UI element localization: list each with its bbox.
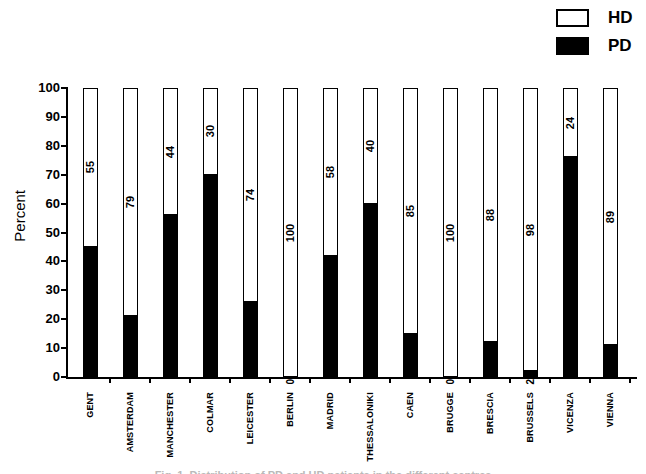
y-tick-label: 30 bbox=[18, 282, 60, 298]
category-label-colmar: COLMAR bbox=[205, 392, 216, 433]
bar-amsterdam bbox=[123, 88, 138, 377]
category-label-brescia: BRESCIA bbox=[485, 392, 496, 434]
y-tick bbox=[61, 289, 67, 291]
legend-row-hd: HD bbox=[556, 4, 633, 32]
bar-value-label: 100 bbox=[284, 223, 296, 241]
category-label-leicester: LEICESTER bbox=[245, 392, 256, 444]
y-tick-label: 100 bbox=[18, 80, 60, 96]
category-label-vienna: VIENNA bbox=[605, 392, 616, 427]
x-tick bbox=[149, 379, 151, 383]
y-tick-label: 40 bbox=[18, 253, 60, 269]
y-tick-label: 10 bbox=[18, 340, 60, 356]
category-label-brugge: BRUGGE bbox=[445, 392, 456, 433]
bar-vienna bbox=[603, 88, 618, 377]
legend-label-pd: PD bbox=[608, 37, 632, 55]
category-label-vicenza: VICENZA bbox=[565, 392, 576, 433]
bar-pd-segment bbox=[484, 341, 497, 376]
bar-brescia bbox=[483, 88, 498, 377]
category-label-manchester: MANCHESTER bbox=[165, 392, 176, 458]
bar-pd-segment bbox=[364, 203, 377, 376]
x-tick bbox=[469, 379, 471, 383]
category-label-amsterdam: AMSTERDAM bbox=[125, 392, 136, 452]
y-tick-label: 70 bbox=[18, 167, 60, 183]
category-label-madrid: MADRID bbox=[325, 392, 336, 429]
bar-value-label: 55 bbox=[84, 161, 96, 173]
category-label-gent: GENT bbox=[85, 392, 96, 418]
x-tick bbox=[509, 379, 511, 383]
stacked-bar-chart-figure: HD PD Percent 010203040506070809010055GE… bbox=[0, 0, 646, 474]
x-tick bbox=[309, 379, 311, 383]
y-tick-label: 90 bbox=[18, 109, 60, 125]
bar-value-label: 98 bbox=[524, 223, 536, 235]
figure-caption-clipped: Fig. 1. Distribution of PD and HD patien… bbox=[0, 465, 646, 474]
x-tick bbox=[229, 379, 231, 383]
category-label-thessaloniki: THESSALONIKI bbox=[365, 392, 376, 461]
bar-value-label: 30 bbox=[204, 125, 216, 137]
bar-value-label: 88 bbox=[484, 209, 496, 221]
x-axis-line bbox=[66, 377, 637, 379]
legend-label-hd: HD bbox=[608, 9, 633, 27]
bar-value-label: 89 bbox=[604, 210, 616, 222]
bar-madrid bbox=[323, 88, 338, 377]
bar-pd-segment bbox=[204, 174, 217, 376]
x-tick bbox=[189, 379, 191, 383]
bar-value-label: 74 bbox=[244, 189, 256, 201]
y-tick bbox=[61, 260, 67, 262]
bar-value-label: 100 bbox=[444, 223, 456, 241]
y-tick bbox=[61, 116, 67, 118]
y-tick bbox=[61, 203, 67, 205]
bar-pd-segment bbox=[564, 156, 577, 376]
y-tick-label: 80 bbox=[18, 138, 60, 154]
y-tick-label: 60 bbox=[18, 196, 60, 212]
category-label-berlin: BERLIN bbox=[285, 392, 296, 427]
x-tick bbox=[589, 379, 591, 383]
x-tick bbox=[349, 379, 351, 383]
bar-gent bbox=[83, 88, 98, 377]
y-tick-label: 50 bbox=[18, 225, 60, 241]
bar-pd-segment bbox=[524, 370, 537, 376]
y-tick bbox=[61, 87, 67, 89]
x-tick bbox=[269, 379, 271, 383]
y-tick-label: 20 bbox=[18, 311, 60, 327]
y-tick bbox=[61, 145, 67, 147]
bar-value-label: 44 bbox=[164, 145, 176, 157]
y-tick bbox=[61, 376, 67, 378]
bar-manchester bbox=[163, 88, 178, 377]
y-tick bbox=[61, 232, 67, 234]
x-tick bbox=[389, 379, 391, 383]
legend-swatch-hd bbox=[556, 9, 589, 27]
bar-pd-segment bbox=[164, 214, 177, 376]
bar-caen bbox=[403, 88, 418, 377]
y-tick bbox=[61, 318, 67, 320]
pd-value-label: 0 bbox=[445, 379, 456, 385]
bar-value-label: 79 bbox=[124, 196, 136, 208]
category-label-brussels: BRUSSELS bbox=[525, 392, 536, 443]
x-tick bbox=[429, 379, 431, 383]
legend-swatch-pd bbox=[556, 37, 589, 55]
bar-pd-segment bbox=[244, 301, 257, 376]
bar-value-label: 24 bbox=[564, 117, 576, 129]
pd-value-label: 0 bbox=[285, 379, 296, 385]
bar-pd-segment bbox=[404, 333, 417, 376]
bar-vicenza bbox=[563, 88, 578, 377]
bar-value-label: 58 bbox=[324, 166, 336, 178]
bar-leicester bbox=[243, 88, 258, 377]
x-tick bbox=[549, 379, 551, 383]
legend-row-pd: PD bbox=[556, 32, 633, 60]
bar-value-label: 40 bbox=[364, 140, 376, 152]
pd-value-label: 2 bbox=[525, 379, 536, 385]
bar-thessaloniki bbox=[363, 88, 378, 377]
bar-pd-segment bbox=[324, 255, 337, 376]
bar-value-label: 85 bbox=[404, 205, 416, 217]
bar-pd-segment bbox=[84, 246, 97, 376]
y-tick bbox=[61, 174, 67, 176]
legend: HD PD bbox=[556, 4, 633, 60]
bar-pd-segment bbox=[124, 315, 137, 376]
x-tick bbox=[109, 379, 111, 383]
bar-pd-segment bbox=[604, 344, 617, 376]
category-label-caen: CAEN bbox=[405, 392, 416, 418]
y-tick bbox=[61, 347, 67, 349]
x-tick bbox=[629, 379, 631, 383]
y-tick-label: 0 bbox=[18, 369, 60, 385]
